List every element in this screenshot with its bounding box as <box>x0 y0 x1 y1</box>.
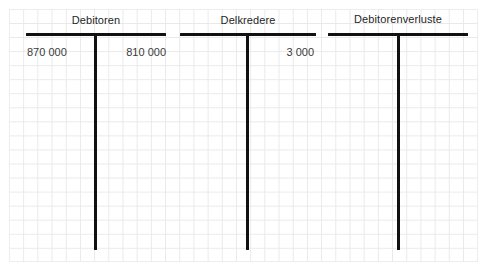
t-account-title: Delkredere <box>180 14 316 27</box>
t-account-debit-amount: 870 000 <box>27 46 91 59</box>
t-account-title: Debitorenverluste <box>328 13 468 26</box>
t-account-divider-stem <box>94 33 97 250</box>
t-account-credit-amount: 3 000 <box>250 46 314 59</box>
t-account-diagram: Debitoren 870 000 810 000 Delkredere 3 0… <box>0 0 496 279</box>
t-account-delkredere: Delkredere 3 000 <box>180 0 316 279</box>
t-account-divider-stem <box>397 33 400 250</box>
t-account-debitorenverluste: Debitorenverluste <box>328 0 468 279</box>
t-account-debitoren: Debitoren 870 000 810 000 <box>26 0 166 279</box>
t-account-divider-stem <box>246 33 249 250</box>
t-account-credit-amount: 810 000 <box>100 46 166 59</box>
t-account-title: Debitoren <box>26 14 166 27</box>
